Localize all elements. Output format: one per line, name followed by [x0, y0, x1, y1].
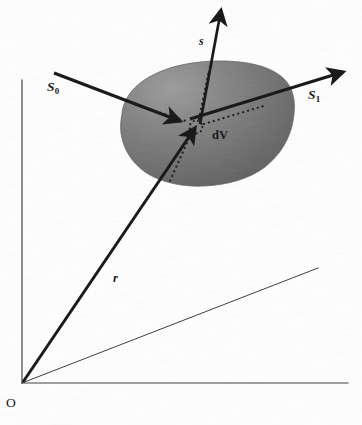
- label-scattered-beam-subscript: 1: [316, 94, 320, 104]
- label-incident-beam-subscript: 0: [55, 86, 59, 96]
- position-vector-arrow: [23, 128, 195, 382]
- label-scattered-beam-symbol: S: [308, 87, 316, 102]
- diagram-canvas: [0, 0, 362, 425]
- label-incident-beam-symbol: S: [47, 79, 55, 94]
- label-scattered-beam: S1: [308, 88, 320, 102]
- label-normal-vector: s: [199, 35, 204, 47]
- label-position-vector: r: [113, 272, 118, 285]
- label-volume-element: dV: [212, 129, 228, 142]
- scattering-geometry-figure: S0 S1 s r dV O: [0, 0, 362, 425]
- label-incident-beam: S0: [47, 80, 59, 94]
- label-origin: O: [6, 396, 16, 410]
- depth-axis: [22, 268, 318, 383]
